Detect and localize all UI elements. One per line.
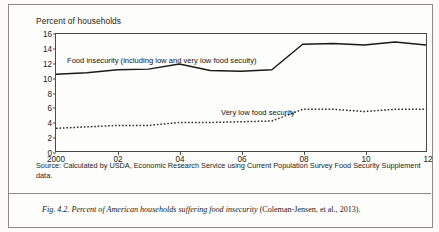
- y-axis-tick-mark: [53, 48, 57, 49]
- series-label-very-low-food-security: Very low food security: [221, 108, 295, 117]
- figure-page: Percent of households Food insecurity (i…: [0, 0, 439, 232]
- y-axis-tick-mark: [53, 63, 57, 64]
- y-axis-tick-mark: [53, 93, 57, 94]
- y-axis-tick-mark: [53, 138, 57, 139]
- series-label-food-insecurity: Food insecurity (including low and very …: [67, 56, 257, 65]
- caption-text: Percent of American households suffering…: [71, 205, 257, 214]
- y-axis-tick-mark: [53, 108, 57, 109]
- y-axis-tick-mark: [53, 153, 57, 154]
- y-axis-tick-mark: [53, 78, 57, 79]
- x-axis-tick-mark: [242, 151, 243, 155]
- series-lines: [56, 34, 426, 151]
- y-axis-tick-mark: [53, 34, 57, 35]
- y-axis-tick-mark: [53, 123, 57, 124]
- x-axis-tick-mark: [180, 151, 181, 155]
- x-axis-tick-mark: [366, 151, 367, 155]
- caption-number: Fig. 4.2.: [42, 205, 69, 214]
- figure-panel: Percent of households Food insecurity (i…: [8, 4, 431, 194]
- source-note: Source: Calculated by USDA, Economic Res…: [36, 161, 428, 182]
- x-axis-tick-mark: [304, 151, 305, 155]
- caption-citation: (Coleman-Jensen, et al., 2013).: [260, 205, 361, 214]
- x-axis-tick-mark: [118, 151, 119, 155]
- figure-caption: Fig. 4.2. Percent of American households…: [8, 194, 431, 226]
- y-axis-title: Percent of households: [36, 16, 121, 26]
- plot-area: Food insecurity (including low and very …: [55, 33, 427, 152]
